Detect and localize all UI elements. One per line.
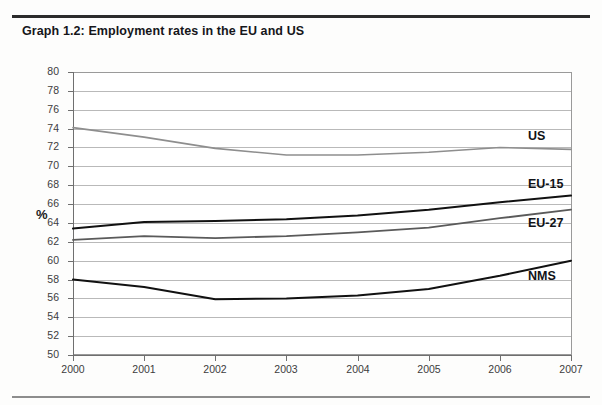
series-label-nms: NMS — [528, 269, 556, 283]
series-line-eu-27 — [73, 210, 571, 240]
bottom-rule — [12, 396, 590, 398]
series-label-eu-15: EU-15 — [528, 177, 563, 191]
series-label-eu-27: EU-27 — [528, 216, 563, 230]
series-line-eu-15 — [73, 196, 571, 229]
series-lines-group — [0, 0, 602, 405]
figure-page: Graph 1.2: Employment rates in the EU an… — [0, 0, 602, 405]
series-label-us: US — [528, 129, 545, 143]
series-line-us — [73, 128, 571, 155]
employment-rates-line-chart: 80787674727068666462605856545250 2000200… — [0, 0, 602, 405]
series-line-nms — [73, 261, 571, 300]
